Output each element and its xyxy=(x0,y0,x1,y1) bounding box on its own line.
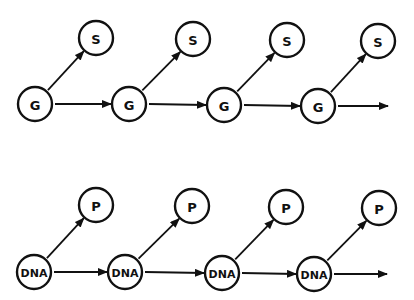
gene-row-s-node-4: S xyxy=(361,24,395,58)
gene-row-chain-arrow-2 xyxy=(149,104,206,105)
dna-row-branch-arrow-1 xyxy=(47,218,84,258)
edges-layer xyxy=(47,51,388,274)
dna-row-dna-node-3: DNA xyxy=(205,256,239,290)
node-label: P xyxy=(187,200,197,215)
gene-row-s-node-2: S xyxy=(176,22,210,56)
dna-row-p-node-3: P xyxy=(269,190,303,224)
node-label: DNA xyxy=(301,269,328,282)
node-label: DNA xyxy=(21,267,48,280)
gene-row-branch-arrow-2 xyxy=(142,52,180,91)
gene-row-g-node-1: G xyxy=(18,87,52,121)
node-label: G xyxy=(219,99,230,114)
node-label: G xyxy=(313,100,324,115)
gene-row-branch-arrow-4 xyxy=(331,54,366,92)
dna-row-dna-node-4: DNA xyxy=(297,257,331,291)
node-label: G xyxy=(30,98,41,113)
node-label: S xyxy=(373,35,382,50)
node-label: P xyxy=(281,201,291,216)
dna-row-chain-arrow-2 xyxy=(145,272,204,273)
dna-row-p-node-2: P xyxy=(175,189,209,223)
node-label: DNA xyxy=(112,267,139,280)
gene-row-s-node-3: S xyxy=(270,23,304,57)
dna-row-dna-node-1: DNA xyxy=(17,255,51,289)
diagram-canvas: GGGGSSSSDNADNADNADNAPPPP xyxy=(0,0,414,300)
gene-row-g-node-3: G xyxy=(207,88,241,122)
node-label: S xyxy=(282,34,291,49)
dna-row-p-node-4: P xyxy=(362,191,396,225)
node-label: P xyxy=(91,199,101,214)
dna-row-p-node-1: P xyxy=(79,188,113,222)
node-label: DNA xyxy=(209,268,236,281)
gene-row-g-node-2: G xyxy=(112,87,146,121)
gene-row-s-node-1: S xyxy=(79,21,113,55)
dna-row-chain-arrow-3 xyxy=(242,273,296,274)
gene-row-branch-arrow-3 xyxy=(237,53,274,91)
dna-row-dna-node-2: DNA xyxy=(108,255,142,289)
node-label: S xyxy=(188,33,197,48)
gene-row-chain-arrow-3 xyxy=(244,105,300,106)
gene-row-g-node-4: G xyxy=(301,89,335,123)
dna-row-branch-arrow-3 xyxy=(235,220,273,259)
node-label: S xyxy=(91,32,100,47)
node-label: P xyxy=(374,202,384,217)
dna-row-branch-arrow-2 xyxy=(139,219,180,259)
gene-row-branch-arrow-1 xyxy=(48,51,84,90)
node-label: G xyxy=(124,98,135,113)
dna-row-branch-arrow-4 xyxy=(327,221,366,261)
